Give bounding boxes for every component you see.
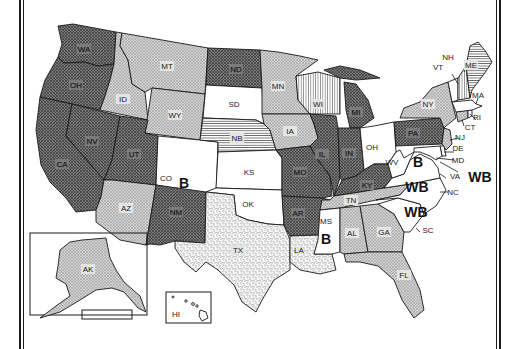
state-label-ms: MS: [320, 217, 332, 226]
state-label-ri: RI: [473, 113, 481, 122]
state-label-or: OH: [70, 81, 82, 90]
state-label-hi: HI: [172, 310, 180, 319]
state-label-ak: AK: [83, 265, 94, 274]
state-label-ga: GA: [378, 228, 390, 237]
state-label-mt: MT: [161, 62, 173, 71]
state-label-ma: MA: [472, 91, 485, 100]
state-label-mn: MN: [272, 82, 285, 91]
annotation-wv: B: [413, 154, 423, 170]
state-label-va: VA: [450, 172, 461, 181]
state-label-la: LA: [294, 246, 304, 255]
state-label-oh: OH: [366, 143, 378, 152]
state-AK[interactable]: [40, 238, 146, 318]
state-label-sd: SD: [228, 100, 239, 109]
state-label-tx: TX: [233, 246, 244, 255]
state-label-ut: UT: [129, 150, 140, 159]
state-label-az: AZ: [121, 204, 131, 213]
state-label-ct: CT: [465, 123, 476, 132]
state-label-mo: MO: [294, 168, 307, 177]
state-label-ca: CA: [56, 160, 68, 169]
state-label-nm: NM: [170, 208, 183, 217]
us-state-map: WAOHCANVIDMTWYUTAZCONMNDSDNBKSOKTXMNIAMO…: [0, 0, 516, 349]
state-label-wi: WI: [313, 100, 323, 109]
state-label-al: AL: [347, 229, 357, 238]
state-label-nb: NB: [231, 134, 242, 143]
state-label-wa: WA: [78, 45, 91, 54]
state-label-il: IL: [319, 150, 326, 159]
state-label-nh: NH: [442, 53, 454, 62]
state-label-vt: VT: [433, 63, 443, 72]
annotation-nc: WB: [405, 179, 428, 195]
state-label-in: IN: [345, 149, 353, 158]
state-label-nj: NJ: [455, 133, 465, 142]
state-label-nd: ND: [230, 65, 242, 74]
state-label-me: ME: [465, 61, 477, 70]
state-label-sc: SC: [422, 226, 433, 235]
state-label-nc: NC: [447, 188, 459, 197]
state-label-ar: AR: [292, 209, 303, 218]
state-label-ok: OK: [242, 200, 254, 209]
state-label-pa: PA: [408, 129, 419, 138]
annotation-sc: WB: [404, 204, 427, 220]
state-label-ia: IA: [286, 127, 294, 136]
state-label-ky: KY: [362, 181, 373, 190]
state-label-wv: WV: [386, 158, 400, 167]
state-label-co: CO: [160, 174, 172, 183]
state-label-ks: KS: [244, 168, 255, 177]
annotation-ms: B: [321, 231, 331, 247]
state-label-mi: MI: [352, 108, 361, 117]
state-MA[interactable]: [452, 100, 482, 112]
state-label-md: MD: [452, 156, 465, 165]
annotation-co: B: [179, 175, 189, 191]
state-label-nv: NV: [86, 137, 98, 146]
state-label-fl: FL: [399, 271, 409, 280]
state-label-wy: WY: [169, 111, 183, 120]
state-label-de: DE: [452, 144, 463, 153]
state-label-ny: NY: [422, 100, 434, 109]
state-FL[interactable]: [344, 252, 424, 318]
state-label-tn: TN: [346, 196, 357, 205]
state-label-id: ID: [119, 95, 127, 104]
annotation-va: WB: [468, 169, 491, 185]
